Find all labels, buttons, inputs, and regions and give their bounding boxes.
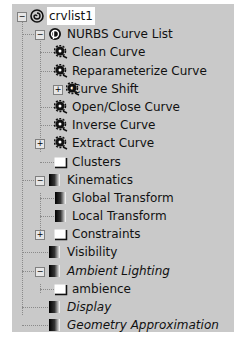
tree-node-constraints[interactable]: + Constraints xyxy=(12,225,234,243)
tree-branch xyxy=(22,307,48,308)
spiral-icon xyxy=(30,9,44,23)
tree-node-ambience[interactable]: ambience xyxy=(12,280,234,298)
nurbs-curve-list-icon xyxy=(48,27,62,41)
tree-branch xyxy=(40,52,54,53)
tree-branch xyxy=(22,325,48,326)
property-icon xyxy=(54,191,68,205)
property-icon xyxy=(48,264,62,278)
tree-node-display[interactable]: Display xyxy=(12,298,234,316)
property-icon xyxy=(48,300,62,314)
operator-gear-icon xyxy=(54,118,68,132)
tree-node-label: Global Transform xyxy=(70,189,176,207)
folder-icon xyxy=(54,155,68,169)
expand-toggle[interactable]: + xyxy=(35,230,45,240)
operator-gear-icon xyxy=(54,100,68,114)
tree-node-label: Reparameterize Curve xyxy=(70,62,209,80)
tree-node-clusters[interactable]: Clusters xyxy=(12,153,234,171)
tree-node-local-transform[interactable]: Local Transform xyxy=(12,207,234,225)
tree-node-label: NURBS Curve List xyxy=(65,25,175,43)
tree-node-label: ambience xyxy=(70,280,133,298)
operator-gear-icon xyxy=(54,136,68,150)
collapse-toggle[interactable]: − xyxy=(35,30,45,40)
tree-node-ambient-lighting[interactable]: − Ambient Lighting xyxy=(12,262,234,280)
tree-node-label: Clusters xyxy=(70,153,123,171)
property-icon xyxy=(48,173,62,187)
operator-gear-icon xyxy=(54,64,68,78)
tree-branch xyxy=(40,289,54,290)
tree-branch xyxy=(40,162,54,163)
tree-node-root[interactable]: − crvlist1 xyxy=(12,7,234,25)
tree-node-nurbs-curve-list[interactable]: − NURBS Curve List xyxy=(12,25,234,43)
expand-toggle[interactable]: + xyxy=(53,85,63,95)
tree-node-label: Clean Curve xyxy=(70,43,147,61)
expand-toggle[interactable]: + xyxy=(35,139,45,149)
tree-node-label: Inverse Curve xyxy=(70,116,157,134)
tree-node-kinematics[interactable]: − Kinematics xyxy=(12,171,234,189)
tree-node-clean-curve[interactable]: Clean Curve xyxy=(12,43,234,61)
tree-node-visibility[interactable]: Visibility xyxy=(12,243,234,261)
tree-branch xyxy=(40,107,54,108)
tree-branch xyxy=(40,125,54,126)
tree-node-reparameterize-curve[interactable]: Reparameterize Curve xyxy=(12,62,234,80)
tree-view: − crvlist1 − NURBS Curve List Clean Curv… xyxy=(12,7,234,334)
tree-node-inverse-curve[interactable]: Inverse Curve xyxy=(12,116,234,134)
tree-node-label: Curve Shift xyxy=(70,80,141,98)
tree-node-label: Open/Close Curve xyxy=(70,98,182,116)
tree-node-geometry-approximation[interactable]: Geometry Approximation xyxy=(12,316,234,334)
folder-icon xyxy=(54,282,68,296)
collapse-toggle[interactable]: − xyxy=(35,267,45,277)
collapse-toggle[interactable]: − xyxy=(17,12,27,22)
tree-node-label: Display xyxy=(65,298,113,316)
tree-branch xyxy=(22,271,36,272)
tree-branch xyxy=(22,180,36,181)
tree-node-label: Extract Curve xyxy=(70,134,156,152)
tree-branch xyxy=(40,216,54,217)
property-icon xyxy=(48,318,62,332)
tree-node-label: crvlist1 xyxy=(47,7,95,25)
folder-icon xyxy=(54,227,68,241)
tree-node-label: Local Transform xyxy=(70,207,169,225)
tree-node-label: Kinematics xyxy=(65,171,135,189)
tree-node-label: Ambient Lighting xyxy=(65,262,172,280)
tree-branch xyxy=(22,252,48,253)
tree-node-label: Visibility xyxy=(65,243,119,261)
tree-node-global-transform[interactable]: Global Transform xyxy=(12,189,234,207)
tree-node-open-close-curve[interactable]: Open/Close Curve xyxy=(12,98,234,116)
property-icon xyxy=(54,209,68,223)
tree-node-curve-shift[interactable]: + Curve Shift xyxy=(12,80,234,98)
tree-branch xyxy=(40,71,54,72)
tree-node-label: Constraints xyxy=(70,225,142,243)
tree-node-extract-curve[interactable]: + Extract Curve xyxy=(12,134,234,152)
tree-node-label: Geometry Approximation xyxy=(65,316,221,334)
collapse-toggle[interactable]: − xyxy=(35,176,45,186)
operator-gear-icon xyxy=(54,45,68,59)
tree-branch xyxy=(22,34,36,35)
tree-branch xyxy=(40,198,54,199)
property-icon xyxy=(48,245,62,259)
explorer-tree-panel: − crvlist1 − NURBS Curve List Clean Curv… xyxy=(12,4,234,332)
